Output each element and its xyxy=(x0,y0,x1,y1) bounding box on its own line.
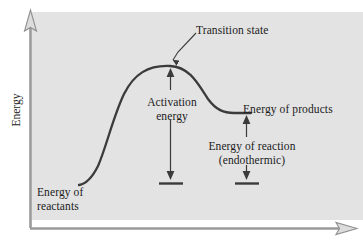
y-axis-label: Energy xyxy=(10,80,22,140)
label-activation-energy: Activation energy xyxy=(140,96,204,123)
label-energy-of-reactants: Energy of reactants xyxy=(37,186,109,213)
energy-diagram-figure: Energy Transition state Activation energ… xyxy=(0,0,363,247)
label-energy-of-reaction: Energy of reaction (endothermic) xyxy=(192,140,312,167)
label-transition-state: Transition state xyxy=(196,24,268,38)
x-axis xyxy=(30,223,357,235)
label-energy-of-products: Energy of products xyxy=(243,103,333,117)
